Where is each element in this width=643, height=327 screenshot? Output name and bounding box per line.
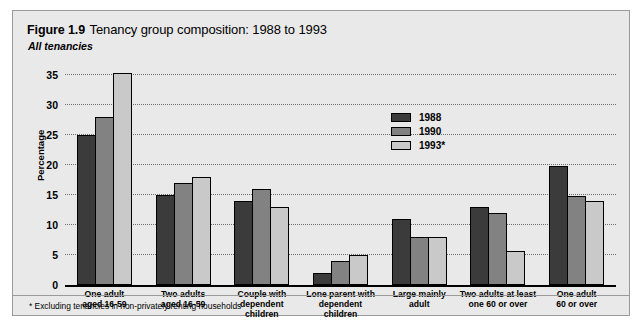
legend-label: 1993* <box>419 140 445 151</box>
bar <box>549 166 568 285</box>
y-axis-title: Percentage <box>35 130 46 181</box>
bar <box>392 219 411 285</box>
bar-group <box>65 75 144 285</box>
bar <box>331 261 350 285</box>
bar <box>270 207 289 285</box>
bar-group <box>222 75 301 285</box>
bar <box>77 135 96 285</box>
bar <box>113 73 132 285</box>
legend-label: 1988 <box>419 112 441 123</box>
legend-swatch <box>391 141 411 150</box>
page-title: Tenancy group composition: 1988 to 1993 <box>90 22 328 37</box>
bar <box>488 213 507 285</box>
bar <box>349 255 368 285</box>
figure-header: Figure 1.9 Tenancy group composition: 19… <box>27 20 607 52</box>
y-axis-tick-label: 30 <box>46 99 58 111</box>
y-axis-tick-label: 10 <box>46 219 58 231</box>
figure-title-line: Figure 1.9 Tenancy group composition: 19… <box>27 20 607 38</box>
legend-item: 1993* <box>391 138 445 152</box>
y-axis-tick-label: 15 <box>46 189 58 201</box>
plot-area: 05101520253035 <box>65 75 616 287</box>
bar <box>95 117 114 285</box>
plot-wrapper: 05101520253035 <box>65 75 616 287</box>
bar <box>156 195 175 285</box>
bar-group <box>301 75 380 285</box>
bar-groups <box>65 75 616 285</box>
bar-group <box>537 75 616 285</box>
legend-item: 1988 <box>391 110 445 124</box>
y-axis-tick-label: 5 <box>52 249 58 261</box>
bar <box>174 183 193 285</box>
y-axis-tick-label: 25 <box>46 129 58 141</box>
y-axis-tick-label: 0 <box>52 279 58 291</box>
bar <box>506 251 525 285</box>
bar <box>428 237 447 285</box>
bar <box>234 201 253 285</box>
y-axis-tick-label: 35 <box>46 69 58 81</box>
bar <box>192 177 211 285</box>
bar <box>252 189 271 285</box>
bar <box>410 237 429 285</box>
bar-group <box>380 75 459 285</box>
figure-subtitle: All tenancies <box>28 40 607 52</box>
legend-label: 1990 <box>419 126 441 137</box>
footnote: * Excluding tenancies in non-privately r… <box>29 301 241 311</box>
bar <box>567 196 586 285</box>
legend-swatch <box>391 127 411 136</box>
bar <box>585 201 604 285</box>
legend-swatch <box>391 113 411 122</box>
chart-legend: 198819901993* <box>391 110 445 152</box>
bar <box>470 207 489 285</box>
footnote-divider <box>13 295 629 296</box>
y-axis-tick-label: 20 <box>46 159 58 171</box>
bar-group <box>144 75 223 285</box>
bar <box>313 273 332 285</box>
figure-panel: Figure 1.9 Tenancy group composition: 19… <box>12 10 630 316</box>
legend-item: 1990 <box>391 124 445 138</box>
bar-group <box>459 75 538 285</box>
figure-number: Figure 1.9 <box>27 23 85 37</box>
